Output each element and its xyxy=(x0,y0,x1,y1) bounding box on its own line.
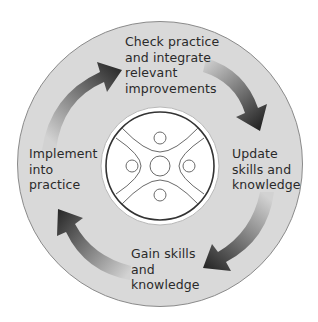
step-label-line: skills and xyxy=(232,162,301,178)
four-quadrant-emblem-icon xyxy=(101,107,219,225)
step-label-line: Check practice xyxy=(125,34,219,50)
step-label-line: Update xyxy=(232,146,301,162)
step-label-update-skills: Update skills and knowledge xyxy=(232,146,301,193)
step-label-line: improvements xyxy=(125,81,219,97)
step-label-line: relevant xyxy=(125,65,219,81)
step-label-check-practice: Check practice and integrate relevant im… xyxy=(125,34,219,96)
step-label-line: knowledge xyxy=(232,177,301,193)
step-label-implement: Implement into practice xyxy=(29,146,98,193)
step-label-gain-skills: Gain skills and knowledge xyxy=(131,246,200,293)
step-label-line: practice xyxy=(29,177,98,193)
step-label-line: knowledge xyxy=(131,277,200,293)
step-label-line: Implement xyxy=(29,146,98,162)
step-label-line: and xyxy=(131,262,200,278)
step-label-line: into xyxy=(29,162,98,178)
step-label-line: and integrate xyxy=(125,50,219,66)
step-label-line: Gain skills xyxy=(131,246,200,262)
